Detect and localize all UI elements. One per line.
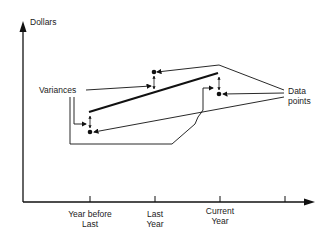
variances-leaders [70,86,213,144]
x-tick-year-before-last-line2: Last [60,219,120,229]
variance-arrows [90,76,219,128]
trend-line [89,73,218,112]
data-point-last-year [152,70,157,75]
data-point-year-before-last [88,130,93,135]
x-tick-last-year-line1: Last [130,209,180,219]
x-tick-current-year-line1: Current [195,206,245,216]
y-axis-label: Dollars [30,17,56,27]
variance-diagram [0,0,329,239]
data-points-label-line1: Data [288,86,306,96]
x-tick-last-year-line2: Year [130,219,180,229]
data-points-leaders [94,65,284,132]
x-tick-current-year-line2: Year [195,216,245,226]
x-tick-year-before-last-line1: Year before [60,209,120,219]
data-points-label-line2: points [288,96,311,106]
x-axis [23,196,315,206]
y-axis [20,21,27,202]
data-point-current-year [217,92,222,97]
variances-label: Variances [39,85,76,95]
